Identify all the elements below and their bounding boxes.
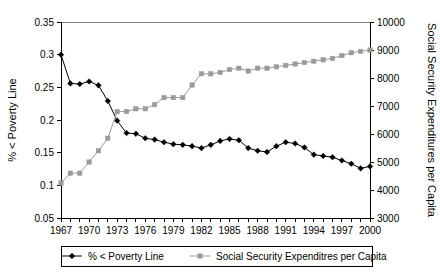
x-axis-tick-label: 2000 xyxy=(359,225,382,236)
x-axis-tick-label: 1982 xyxy=(190,225,213,236)
line-chart: 0.050.10.150.20.250.30.35 30004000500060… xyxy=(0,0,440,277)
data-point-marker xyxy=(161,139,167,145)
legend-marker xyxy=(198,254,202,258)
data-point-marker xyxy=(237,66,241,70)
data-point-marker xyxy=(320,153,326,159)
data-point-marker xyxy=(312,59,316,63)
data-point-marker xyxy=(255,148,261,154)
x-axis-tick-label: 1967 xyxy=(50,225,73,236)
data-point-marker xyxy=(321,58,325,62)
left-axis-tick-label: 0.2 xyxy=(40,115,54,126)
data-point-marker xyxy=(115,109,119,113)
data-point-marker xyxy=(190,83,194,87)
right-axis-tick-label: 5000 xyxy=(377,157,400,168)
x-axis-tick-label: 1970 xyxy=(78,225,101,236)
data-point-marker xyxy=(152,102,156,106)
left-axis-tick-label: 0.25 xyxy=(35,82,55,93)
data-point-marker xyxy=(274,143,280,149)
data-point-marker xyxy=(358,166,364,172)
data-point-marker xyxy=(227,136,233,142)
data-point-marker xyxy=(283,139,289,145)
legend-marker xyxy=(69,253,75,259)
data-point-marker xyxy=(330,154,336,160)
left-axis-tick-label: 0.05 xyxy=(35,213,55,224)
data-point-marker xyxy=(78,171,82,175)
data-point-marker xyxy=(86,79,92,85)
data-point-marker xyxy=(199,72,203,76)
data-point-marker xyxy=(162,95,166,99)
data-point-marker xyxy=(199,145,205,151)
data-point-marker xyxy=(246,69,250,73)
data-point-marker xyxy=(143,107,147,111)
right-axis-tick-label: 9000 xyxy=(377,45,400,56)
data-point-marker xyxy=(217,138,223,144)
plot-frame xyxy=(61,22,370,218)
y2-axis-title: Social Security Expenditures per Capita xyxy=(426,23,438,218)
left-axis-tick-label: 0.15 xyxy=(35,147,55,158)
x-axis-tick-label: 1994 xyxy=(303,225,326,236)
right-axis-tick-label: 3000 xyxy=(377,213,400,224)
data-point-marker xyxy=(340,53,344,57)
left-axis-tick-label: 0.1 xyxy=(40,180,54,191)
data-point-marker xyxy=(171,95,175,99)
data-series-group xyxy=(58,48,373,185)
left-axis-tick-label: 0.3 xyxy=(40,49,54,60)
right-axis-tick-label: 4000 xyxy=(377,185,400,196)
data-point-marker xyxy=(358,49,362,53)
data-point-marker xyxy=(181,95,185,99)
data-point-marker xyxy=(189,143,195,149)
data-point-marker xyxy=(105,98,111,104)
x-axis-tick-label: 1997 xyxy=(331,225,354,236)
data-point-marker xyxy=(367,164,373,170)
right-axis: 300040005000600070008000900010000 xyxy=(370,17,405,224)
data-point-marker xyxy=(264,149,270,155)
right-axis-tick-label: 8000 xyxy=(377,73,400,84)
data-point-marker xyxy=(330,56,334,60)
data-point-marker xyxy=(87,160,91,164)
data-point-marker xyxy=(293,62,297,66)
data-point-marker xyxy=(142,135,148,141)
data-point-marker xyxy=(255,66,259,70)
left-axis: 0.050.10.150.20.250.30.35 xyxy=(35,17,61,224)
x-axis-tick-label: 1991 xyxy=(275,225,298,236)
data-point-marker xyxy=(152,137,158,143)
legend-label: Social Security Expenditres per Capita xyxy=(216,251,387,262)
right-axis-tick-label: 6000 xyxy=(377,129,400,140)
series-line-poverty xyxy=(61,55,370,169)
right-axis-tick-label: 10000 xyxy=(377,17,405,28)
data-point-marker xyxy=(180,142,186,148)
x-axis-tick-label: 1976 xyxy=(134,225,157,236)
data-point-marker xyxy=(124,109,128,113)
chart-container: 0.050.10.150.20.250.30.35 30004000500060… xyxy=(0,0,440,277)
data-point-marker xyxy=(339,158,345,164)
series-line-social-security xyxy=(61,50,370,183)
data-point-marker xyxy=(68,171,72,175)
data-point-marker xyxy=(59,181,63,185)
data-point-marker xyxy=(292,141,298,147)
data-point-marker xyxy=(209,72,213,76)
data-point-marker xyxy=(348,161,354,167)
y-axis-title: % < Poverty Line xyxy=(6,78,18,161)
data-point-marker xyxy=(134,107,138,111)
data-point-marker xyxy=(171,141,177,147)
data-point-marker xyxy=(284,63,288,67)
x-axis-tick-label: 1973 xyxy=(106,225,129,236)
x-axis: 1967197019731976197919821985198819911994… xyxy=(50,218,382,236)
data-point-marker xyxy=(96,149,100,153)
data-point-marker xyxy=(106,136,110,140)
data-point-marker xyxy=(227,67,231,71)
x-axis-tick-label: 1979 xyxy=(162,225,185,236)
x-axis-tick-label: 1988 xyxy=(247,225,270,236)
data-point-marker xyxy=(265,66,269,70)
data-point-marker xyxy=(368,48,372,52)
legend-label: % < Poverty Line xyxy=(88,251,164,262)
x-axis-tick-label: 1985 xyxy=(218,225,241,236)
data-point-marker xyxy=(208,142,214,148)
data-point-marker xyxy=(68,81,74,87)
data-point-marker xyxy=(133,131,139,137)
data-point-marker xyxy=(274,65,278,69)
data-point-marker xyxy=(218,70,222,74)
data-point-marker xyxy=(58,52,64,58)
left-axis-tick-label: 0.35 xyxy=(35,17,55,28)
data-point-marker xyxy=(96,83,102,89)
